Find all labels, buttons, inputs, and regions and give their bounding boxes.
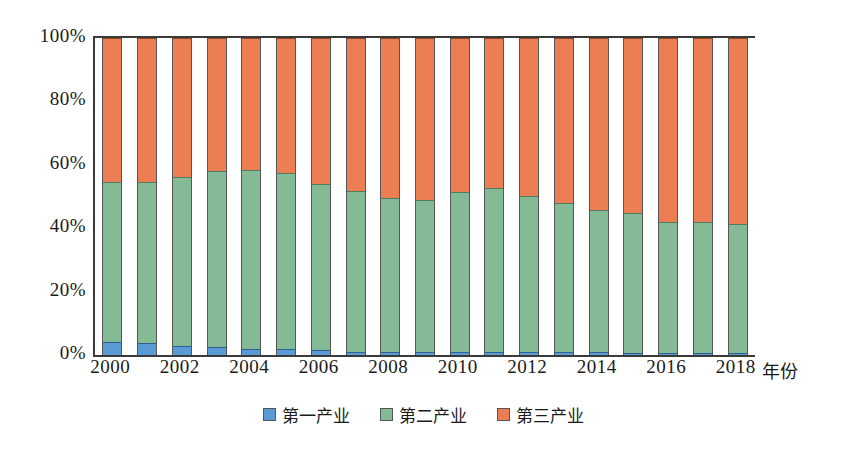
bar-segment-第二产业 [415, 200, 435, 352]
bar-2009[interactable] [415, 38, 435, 355]
bar-segment-第二产业 [728, 224, 748, 353]
chart-legend: 第一产业第二产业第三产业 [0, 402, 846, 427]
bar-2018[interactable] [728, 38, 748, 355]
bar-segment-第二产业 [623, 213, 643, 353]
bar-segment-第二产业 [172, 177, 192, 346]
legend-swatch-icon [263, 408, 276, 421]
bar-segment-第二产业 [693, 222, 713, 353]
legend-label: 第二产业 [399, 402, 467, 427]
bar-2008[interactable] [380, 38, 400, 355]
y-axis: 0%20%40%60%80%100% [0, 0, 86, 450]
bar-2006[interactable] [311, 38, 331, 355]
x-axis-tick-label: 2010 [438, 356, 478, 378]
bar-segment-第一产业 [589, 352, 609, 355]
bar-segment-第三产业 [623, 38, 643, 213]
x-axis-tick-label: 2008 [368, 356, 408, 378]
x-axis-tick-label: 2016 [646, 356, 686, 378]
y-axis-tick-label: 100% [40, 25, 86, 47]
bar-segment-第二产业 [380, 198, 400, 352]
bar-segment-第二产业 [276, 173, 296, 349]
bar-segment-第一产业 [380, 352, 400, 355]
bar-segment-第二产业 [137, 182, 157, 342]
bar-segment-第三产业 [450, 38, 470, 192]
legend-item-第一产业[interactable]: 第一产业 [263, 402, 350, 427]
bar-segment-第三产业 [658, 38, 678, 222]
legend-label: 第一产业 [282, 402, 350, 427]
bar-2013[interactable] [554, 38, 574, 355]
bar-segment-第二产业 [241, 170, 261, 349]
bar-2007[interactable] [346, 38, 366, 355]
x-axis-tick-label: 2014 [577, 356, 617, 378]
bar-segment-第一产业 [519, 352, 539, 355]
bar-segment-第三产业 [102, 38, 122, 182]
y-axis-tick-label: 80% [50, 88, 86, 110]
stacked-bar-chart: 0%20%40%60%80%100% 200020022004200620082… [0, 0, 846, 450]
legend-swatch-icon [497, 408, 510, 421]
bar-segment-第三产业 [554, 38, 574, 203]
bar-2012[interactable] [519, 38, 539, 355]
bar-segment-第三产业 [276, 38, 296, 173]
bar-segment-第一产业 [207, 347, 227, 355]
bar-segment-第二产业 [102, 182, 122, 343]
bar-segment-第一产业 [450, 352, 470, 355]
bar-segment-第三产业 [380, 38, 400, 198]
bar-segment-第一产业 [658, 353, 678, 355]
y-axis-tick-label: 0% [60, 342, 86, 364]
bar-segment-第一产业 [241, 349, 261, 355]
bar-segment-第三产业 [589, 38, 609, 209]
bar-segment-第二产业 [554, 203, 574, 353]
bar-2010[interactable] [450, 38, 470, 355]
legend-item-第三产业[interactable]: 第三产业 [497, 402, 584, 427]
x-axis: 2000200220042006200820102012201420162018 [93, 356, 753, 384]
y-axis-tick-label: 60% [50, 152, 86, 174]
bar-2004[interactable] [241, 38, 261, 355]
bar-segment-第二产业 [589, 210, 609, 353]
bar-segment-第三产业 [137, 38, 157, 182]
bar-2005[interactable] [276, 38, 296, 355]
bar-segment-第三产业 [172, 38, 192, 177]
bar-segment-第三产业 [728, 38, 748, 224]
bar-2011[interactable] [484, 38, 504, 355]
bar-segment-第二产业 [484, 188, 504, 352]
bar-2015[interactable] [623, 38, 643, 355]
bar-segment-第一产业 [693, 353, 713, 355]
bar-segment-第一产业 [484, 352, 504, 355]
bar-2016[interactable] [658, 38, 678, 355]
bar-segment-第一产业 [102, 342, 122, 355]
bar-segment-第一产业 [554, 352, 574, 355]
bar-segment-第一产业 [728, 353, 748, 355]
bar-segment-第二产业 [311, 184, 331, 351]
bar-segment-第二产业 [658, 222, 678, 353]
bar-2002[interactable] [172, 38, 192, 355]
x-axis-tick-label: 2002 [160, 356, 200, 378]
x-axis-tick-label: 2004 [229, 356, 269, 378]
legend-item-第二产业[interactable]: 第二产业 [380, 402, 467, 427]
y-axis-tick-label: 20% [50, 279, 86, 301]
bar-segment-第三产业 [693, 38, 713, 222]
legend-label: 第三产业 [516, 402, 584, 427]
bar-segment-第三产业 [484, 38, 504, 188]
bar-segment-第一产业 [276, 349, 296, 355]
bar-2001[interactable] [137, 38, 157, 355]
bar-segment-第三产业 [519, 38, 539, 196]
bar-segment-第三产业 [346, 38, 366, 191]
legend-swatch-icon [380, 408, 393, 421]
bar-2003[interactable] [207, 38, 227, 355]
bar-segment-第二产业 [519, 196, 539, 353]
bar-2014[interactable] [589, 38, 609, 355]
bar-segment-第一产业 [346, 352, 366, 355]
bar-segment-第一产业 [311, 350, 331, 355]
x-axis-title: 年份 [762, 357, 798, 383]
bar-series-container [95, 38, 755, 355]
bar-segment-第三产业 [241, 38, 261, 170]
bar-segment-第三产业 [415, 38, 435, 200]
x-axis-tick-label: 2018 [716, 356, 756, 378]
bar-segment-第一产业 [172, 346, 192, 356]
bar-segment-第二产业 [450, 192, 470, 351]
x-axis-tick-label: 2012 [507, 356, 547, 378]
bar-2017[interactable] [693, 38, 713, 355]
bar-segment-第一产业 [415, 352, 435, 355]
bar-2000[interactable] [102, 38, 122, 355]
bar-segment-第一产业 [137, 343, 157, 355]
x-axis-tick-label: 2000 [90, 356, 130, 378]
